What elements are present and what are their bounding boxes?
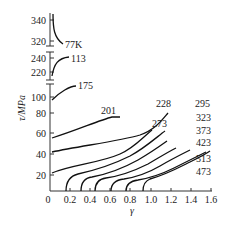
curve-373 bbox=[95, 148, 176, 191]
y-tick-100: 100 bbox=[31, 92, 46, 103]
curve-113 bbox=[52, 57, 69, 76]
chart-canvas: 340 320 240 220 100 80 60 40 20 0 0.2 0.… bbox=[0, 0, 229, 226]
curve-201 bbox=[52, 117, 120, 138]
label-77K: 77K bbox=[65, 39, 83, 50]
x-tick-1.2: 1.2 bbox=[165, 194, 178, 205]
y-tick-60: 60 bbox=[36, 128, 46, 139]
y-tick-80: 80 bbox=[36, 108, 46, 119]
x-tick-0.2: 0.2 bbox=[64, 194, 77, 205]
y-tick-20: 20 bbox=[36, 170, 46, 181]
x-tick-1.0: 1.0 bbox=[145, 194, 158, 205]
curve-323 bbox=[81, 141, 167, 191]
x-tick-0.8: 0.8 bbox=[124, 194, 137, 205]
x-tick-1.6: 1.6 bbox=[205, 194, 218, 205]
label-113: 113 bbox=[71, 53, 86, 64]
curve-513 bbox=[126, 152, 206, 191]
y-tick-220: 220 bbox=[31, 67, 46, 78]
curve-423 bbox=[111, 150, 190, 191]
label-228: 228 bbox=[156, 98, 171, 109]
label-373: 373 bbox=[196, 125, 211, 136]
x-tick-0: 0 bbox=[46, 194, 51, 205]
label-201: 201 bbox=[101, 105, 116, 116]
x-axis bbox=[50, 188, 212, 191]
label-513: 513 bbox=[196, 153, 211, 164]
y-tick-320: 320 bbox=[31, 36, 46, 47]
label-323: 323 bbox=[196, 112, 211, 123]
x-tick-1.4: 1.4 bbox=[185, 194, 198, 205]
label-273: 273 bbox=[152, 118, 167, 129]
y-axis bbox=[46, 13, 54, 191]
curve-77K bbox=[53, 14, 63, 44]
x-tick-0.4: 0.4 bbox=[84, 194, 97, 205]
x-tick-0.6: 0.6 bbox=[104, 194, 117, 205]
y-axis-label: τ/MPa bbox=[16, 95, 27, 121]
curve-175 bbox=[52, 86, 76, 100]
label-473: 473 bbox=[196, 166, 211, 177]
label-295: 295 bbox=[195, 98, 210, 109]
x-axis-label: γ bbox=[130, 205, 135, 216]
y-tick-340: 340 bbox=[31, 15, 46, 26]
y-tick-240: 240 bbox=[31, 53, 46, 64]
label-423: 423 bbox=[196, 137, 211, 148]
label-175: 175 bbox=[78, 80, 93, 91]
y-tick-40: 40 bbox=[36, 149, 46, 160]
